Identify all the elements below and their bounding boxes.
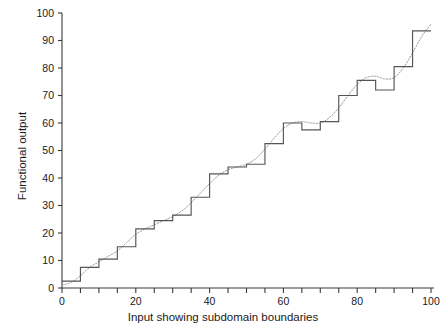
y-tick-label: 10 — [42, 254, 54, 266]
x-axis-ticks — [62, 288, 431, 293]
y-tick-label: 50 — [42, 144, 54, 156]
chart-axes: 0102030405060708090100 020406080100 — [36, 7, 439, 307]
step-function-line — [62, 31, 431, 281]
y-tick-label: 90 — [42, 34, 54, 46]
y-axis-title: Functional output — [16, 66, 28, 246]
x-tick-label: 80 — [351, 295, 363, 307]
y-tick-label: 60 — [42, 117, 54, 129]
y-tick-label: 40 — [42, 172, 54, 184]
y-tick-label: 100 — [36, 7, 54, 19]
step-function-chart: 0102030405060708090100 020406080100 — [0, 0, 446, 330]
x-axis-title: Input showing subdomain boundaries — [0, 311, 446, 323]
y-tick-label: 80 — [42, 62, 54, 74]
y-axis-ticks — [58, 13, 62, 288]
x-axis-tick-labels: 020406080100 — [59, 295, 440, 307]
x-tick-label: 100 — [422, 295, 440, 307]
y-tick-label: 30 — [42, 199, 54, 211]
y-axis-tick-labels: 0102030405060708090100 — [36, 7, 54, 294]
smooth-response-curve — [62, 24, 431, 285]
x-tick-label: 20 — [130, 295, 142, 307]
x-tick-label: 40 — [204, 295, 216, 307]
x-tick-label: 60 — [278, 295, 290, 307]
x-tick-label: 0 — [59, 295, 65, 307]
y-tick-label: 0 — [48, 282, 54, 294]
chart-figure: 0102030405060708090100 020406080100 Inpu… — [0, 0, 446, 330]
y-tick-label: 70 — [42, 89, 54, 101]
y-tick-label: 20 — [42, 227, 54, 239]
